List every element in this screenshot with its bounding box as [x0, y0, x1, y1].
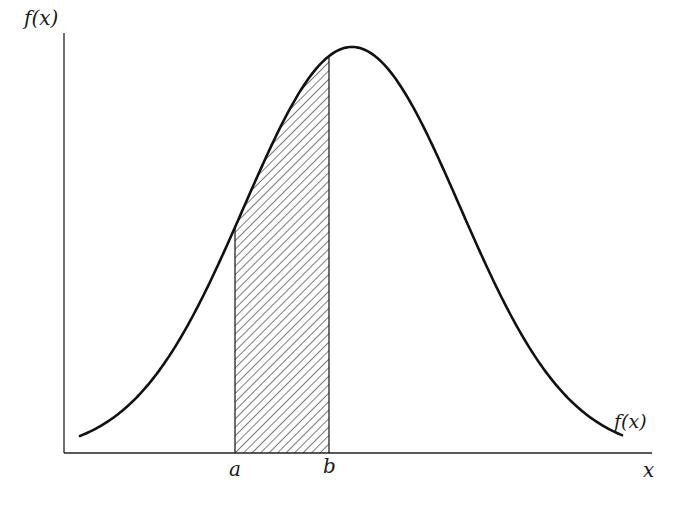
x-axis-label: x	[643, 460, 654, 480]
curve-label: f(x)	[614, 412, 647, 431]
density-curve	[80, 47, 622, 436]
tick-label-a: a	[229, 459, 241, 479]
y-axis-label: f(x)	[24, 8, 58, 28]
tick-label-b: b	[323, 456, 336, 476]
shaded-area-a-to-b	[235, 56, 329, 453]
density-plot	[0, 0, 682, 506]
